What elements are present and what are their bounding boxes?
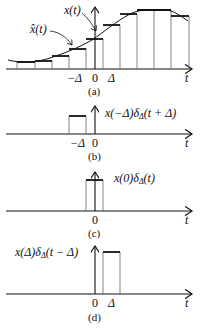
caption-a: (a) (88, 85, 101, 98)
caption-c: (c) (88, 227, 101, 240)
pulse-approximation-diagram: x(t) x̂(t) −Δ 0 Δ t (a) x(−Δ)δΔ(t + Δ) −… (0, 0, 204, 329)
panel-a: x(t) x̂(t) −Δ 0 Δ t (a) (6, 3, 192, 98)
panel-c: x(0)δΔ(t) 0 t (c) (6, 171, 192, 240)
signal-label: x(t) (63, 3, 81, 17)
tick-label-delta: Δ (107, 71, 115, 85)
tick-label-neg-delta: −Δ (70, 136, 85, 150)
tick-label-zero: 0 (92, 296, 98, 310)
panel-d: x(Δ)δΔ(t − Δ) 0 Δ t (d) (6, 245, 192, 324)
pulse-label: x(−Δ)δΔ(t + Δ) (104, 106, 176, 121)
axis-label-t: t (185, 296, 189, 310)
axis-label-t: t (185, 71, 189, 85)
pulse-label: x(Δ)δΔ(t − Δ) (14, 245, 78, 260)
tick-label-delta: Δ (107, 296, 115, 310)
tick-label-zero: 0 (92, 213, 98, 227)
axis-label-t: t (185, 213, 189, 227)
approx-pointer-arrow (50, 31, 72, 45)
caption-d: (d) (88, 311, 101, 324)
panel-b: x(−Δ)δΔ(t + Δ) −Δ 0 t (b) (6, 106, 192, 163)
tick-label-zero: 0 (92, 71, 98, 85)
signal-pointer-arrow (82, 13, 96, 31)
tick-label-zero: 0 (92, 136, 98, 150)
tick-label-neg-delta: −Δ (67, 71, 82, 85)
pulse-label: x(0)δΔ(t) (113, 171, 155, 186)
caption-b: (b) (88, 150, 101, 163)
approx-label: x̂(t) (29, 22, 47, 36)
axis-label-t: t (185, 136, 189, 150)
